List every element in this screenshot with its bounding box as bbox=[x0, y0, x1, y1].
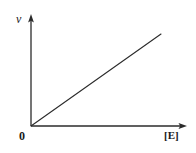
x-axis-label: [E] bbox=[164, 130, 179, 141]
data-line-velocity bbox=[31, 34, 161, 126]
origin-label: 0 bbox=[19, 130, 25, 142]
y-axis-label: v bbox=[16, 13, 21, 25]
figure-container: v 0 [E] bbox=[0, 0, 196, 153]
